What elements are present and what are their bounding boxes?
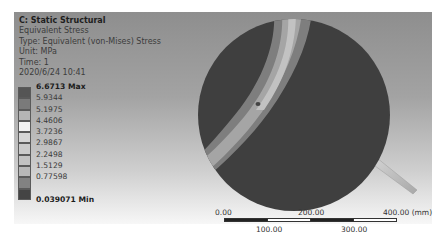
scale-label-300: 300.00 bbox=[341, 225, 367, 234]
sphere-model[interactable] bbox=[14, 12, 432, 224]
graphics-viewport[interactable]: C: Static Structural Equivalent Stress T… bbox=[14, 12, 432, 224]
scale-label-100: 100.00 bbox=[256, 225, 282, 234]
